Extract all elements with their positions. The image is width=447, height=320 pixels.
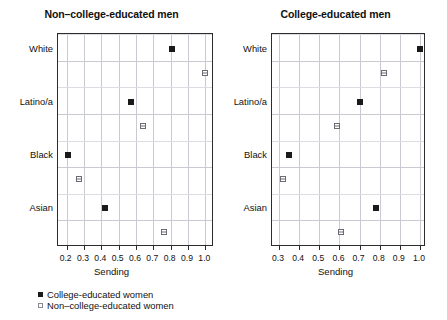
data-point (280, 176, 286, 182)
x-axis-tick (153, 246, 154, 250)
gridline-vertical (360, 34, 361, 245)
data-point (161, 229, 167, 235)
legend-item-college-educated-women: College-educated women (38, 289, 174, 300)
gridline-horizontal-minor (272, 87, 424, 88)
gridline-vertical (299, 34, 300, 245)
panel-title-left: Non–college-educated men (0, 8, 223, 20)
plot-area-left (57, 33, 213, 246)
gridline-vertical (420, 34, 421, 245)
panel-title-right: College-educated men (224, 8, 447, 20)
x-axis-tick (119, 246, 120, 250)
x-axis-tick (101, 246, 102, 250)
x-axis-tick (188, 246, 189, 250)
data-point (169, 46, 175, 52)
plot-area-right (271, 33, 425, 246)
x-axis-tick (279, 246, 280, 250)
gridline-vertical (205, 34, 206, 245)
gridline-vertical (119, 34, 120, 245)
x-axis-tick-label: 0.4 (292, 253, 304, 263)
gridline-vertical (67, 34, 68, 245)
x-axis-tick (136, 246, 137, 250)
panel-non-college-educated-men: Non–college-educated men 0.20.30.40.50.6… (0, 0, 223, 285)
gridline-vertical (136, 34, 137, 245)
gridline-vertical (400, 34, 401, 245)
data-point (357, 99, 363, 105)
x-axis-tick (420, 246, 421, 250)
data-point (65, 152, 71, 158)
data-point (338, 229, 344, 235)
gridline-horizontal-minor (272, 194, 424, 195)
legend-label-non-college-educated-women: Non–college-educated women (47, 300, 174, 311)
x-axis-tick (339, 246, 340, 250)
data-point (102, 205, 108, 211)
gridline-horizontal (58, 114, 212, 115)
y-axis-tick-label-asian: Asian (219, 202, 267, 213)
x-axis-title-right: Sending (224, 266, 447, 277)
x-axis-tick (360, 246, 361, 250)
gridline-horizontal (272, 167, 424, 168)
x-axis-tick-label: 1.0 (413, 253, 425, 263)
gridline-horizontal-minor (272, 34, 424, 35)
x-axis-tick-label: 0.9 (181, 253, 193, 263)
y-axis-tick-label-white: White (5, 42, 53, 53)
gridline-vertical (279, 34, 280, 245)
gridline-horizontal (58, 220, 212, 221)
gridline-horizontal-minor (58, 194, 212, 195)
data-point (202, 70, 208, 76)
x-axis-tick-label: 0.9 (393, 253, 405, 263)
y-axis-tick-label-latino-a: Latino/a (219, 95, 267, 106)
x-axis-tick-label: 0.8 (164, 253, 176, 263)
data-point (128, 99, 134, 105)
gridline-vertical (319, 34, 320, 245)
data-point (417, 46, 423, 52)
x-axis-tick-label: 0.5 (112, 253, 124, 263)
gridline-horizontal (58, 167, 212, 168)
data-point (381, 70, 387, 76)
x-axis-tick (319, 246, 320, 250)
panel-college-educated-men: College-educated men 0.30.40.50.60.70.80… (224, 0, 447, 285)
y-axis-tick-label-asian: Asian (5, 202, 53, 213)
scatter-chart-figure: Non–college-educated men 0.20.30.40.50.6… (0, 0, 447, 320)
gridline-horizontal-minor (58, 87, 212, 88)
gridline-horizontal-minor (272, 141, 424, 142)
data-point (286, 152, 292, 158)
open-square-icon (38, 303, 43, 308)
gridline-horizontal (272, 61, 424, 62)
x-axis-tick-label: 0.3 (272, 253, 284, 263)
gridline-horizontal (272, 114, 424, 115)
y-axis-tick-label-white: White (219, 42, 267, 53)
x-axis-tick (205, 246, 206, 250)
legend-label-college-educated-women: College-educated women (47, 289, 153, 300)
x-axis-tick-label: 0.6 (332, 253, 344, 263)
x-axis-tick-label: 0.3 (77, 253, 89, 263)
y-axis-tick-label-black: Black (5, 149, 53, 160)
x-axis-tick-label: 0.7 (146, 253, 158, 263)
x-axis-tick-label: 0.5 (312, 253, 324, 263)
data-point (140, 123, 146, 129)
x-axis-tick-label: 0.8 (373, 253, 385, 263)
x-axis-tick (299, 246, 300, 250)
x-axis-tick (67, 246, 68, 250)
data-point (76, 176, 82, 182)
data-point (373, 205, 379, 211)
gridline-vertical (339, 34, 340, 245)
chart-legend: College-educated women Non–college-educa… (38, 289, 174, 311)
x-axis-tick (84, 246, 85, 250)
x-axis-tick (171, 246, 172, 250)
x-axis-tick (400, 246, 401, 250)
x-axis-title-left: Sending (0, 266, 223, 277)
gridline-vertical (153, 34, 154, 245)
data-point (334, 123, 340, 129)
y-axis-tick-label-latino-a: Latino/a (5, 95, 53, 106)
x-axis-tick-label: 1.0 (198, 253, 210, 263)
gridline-horizontal (272, 220, 424, 221)
gridline-horizontal-minor (58, 141, 212, 142)
legend-item-non-college-educated-women: Non–college-educated women (38, 300, 174, 311)
gridline-horizontal-minor (58, 34, 212, 35)
gridline-vertical (84, 34, 85, 245)
x-axis-tick-label: 0.2 (60, 253, 72, 263)
gridline-vertical (380, 34, 381, 245)
gridline-vertical (188, 34, 189, 245)
x-axis-tick-label: 0.6 (129, 253, 141, 263)
gridline-vertical (101, 34, 102, 245)
